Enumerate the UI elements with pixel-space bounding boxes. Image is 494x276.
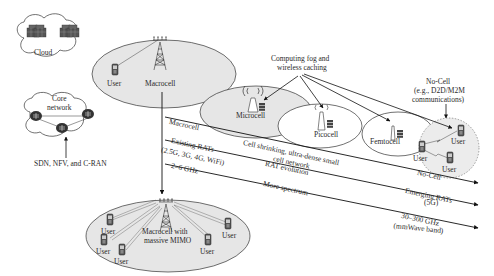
nocell-title-2: (e.g., D2D/M2M (414, 87, 465, 95)
router-icon (82, 109, 94, 119)
mimo-user-3: User (114, 258, 128, 266)
router-icon (30, 111, 42, 121)
mimo-user-5: User (200, 248, 214, 256)
mimo-tower-label-1: Macrocell with (142, 228, 188, 236)
cloud-label: Cloud (34, 49, 52, 57)
femtocell-label: Femtocell (370, 138, 400, 146)
fog-label-1: Computing fog and (271, 55, 329, 63)
fog-label-2: wireless caching (277, 64, 327, 72)
trend-end-emerging-rats-2: (5G) (424, 199, 438, 207)
user-phone-icon (419, 141, 425, 152)
nocell-title-1: No-Cell (426, 78, 450, 86)
user-phone-icon (205, 234, 211, 245)
nocell-title-3: communications) (412, 96, 464, 104)
user-phone-icon (112, 64, 118, 75)
picocell-label: Picocell (314, 131, 338, 139)
core-network-label-2: network (47, 104, 72, 112)
cache-icon (259, 103, 265, 111)
mimo-tower-label-2: massive MIMO (144, 237, 191, 245)
macro-user-label: User (107, 80, 121, 88)
router-icon (56, 123, 68, 133)
cache-icon (327, 120, 333, 128)
user-phone-icon (225, 218, 231, 229)
mimo-user-1: User (101, 228, 115, 236)
core-network-label-1: Core (52, 95, 67, 103)
nocell-user-3: User (442, 166, 456, 174)
user-phone-icon (107, 214, 113, 225)
mimo-user-2: User (96, 248, 110, 256)
user-phone-icon (119, 244, 125, 255)
server-icon (67, 25, 79, 37)
macrocell-label: Macrocell (145, 80, 175, 88)
user-phone-icon (458, 125, 464, 136)
sdn-label: SDN, NFV, and C-RAN (34, 160, 107, 168)
nocell-user-1: User (413, 155, 427, 163)
mimo-user-4: User (222, 232, 236, 240)
nocell-user-2: User (451, 138, 465, 146)
microcell-label: Microcell (236, 112, 265, 120)
user-phone-icon (447, 152, 453, 163)
